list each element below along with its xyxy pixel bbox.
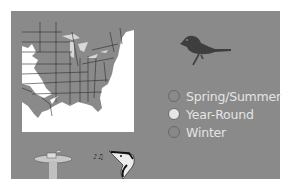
eastern-us-map: [22, 22, 134, 132]
winter-swatch: [168, 126, 180, 138]
season-legend: Spring/Summer Year-Round Winter: [168, 87, 281, 141]
legend-item-winter: Winter: [168, 123, 281, 141]
bird-feeder-icon: [33, 151, 73, 183]
spring-summer-swatch: [168, 90, 180, 102]
svg-text:♪♫: ♪♫: [93, 153, 104, 161]
legend-label: Spring/Summer: [186, 89, 281, 104]
range-map: [22, 22, 134, 132]
bird-silhouette-icon: [179, 33, 237, 71]
legend-item-spring-summer: Spring/Summer: [168, 87, 281, 105]
legend-item-year-round: Year-Round: [168, 105, 281, 123]
legend-label: Year-Round: [186, 107, 254, 122]
year-round-swatch: [168, 108, 180, 120]
range-map-panel: Spring/Summer Year-Round Winter ♪♫: [11, 11, 280, 179]
legend-label: Winter: [186, 125, 226, 140]
bird-song-icon: ♪♫: [93, 149, 139, 185]
